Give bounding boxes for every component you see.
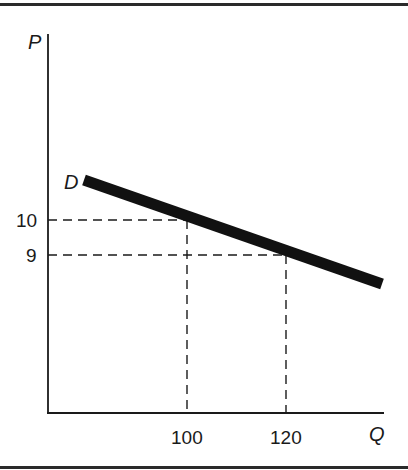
y-axis-label: P	[28, 32, 41, 52]
x-tick-100: 100	[171, 428, 203, 447]
y-tick-10: 10	[16, 211, 37, 230]
y-tick-9: 9	[26, 246, 37, 265]
demand-curve-label: D	[64, 172, 78, 192]
demand-curve	[84, 180, 382, 284]
x-tick-120: 120	[270, 428, 302, 447]
x-axis-label: Q	[369, 424, 385, 444]
chart-canvas	[0, 0, 408, 470]
